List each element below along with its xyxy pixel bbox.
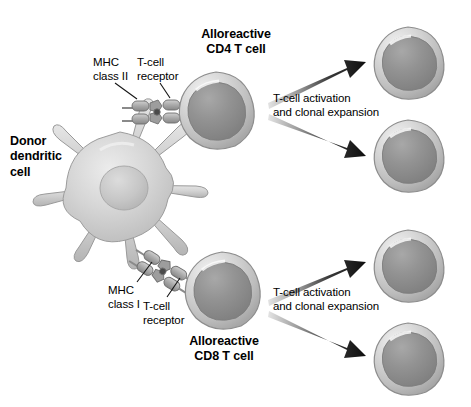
dendritic-cell-nucleus bbox=[100, 166, 148, 210]
tcr-domain-b bbox=[163, 113, 180, 123]
mhc-domain-a bbox=[132, 101, 149, 111]
immunology-figure: Donor dendritic cell MHC class II T-cell… bbox=[0, 0, 471, 407]
label-activation-top: T-cell activation and clonal expansion bbox=[273, 91, 379, 119]
cd4-daughter-cell-1 bbox=[374, 27, 444, 99]
mhc-domain-b bbox=[132, 114, 149, 124]
daughter-cells bbox=[374, 27, 444, 395]
top-leader-lines bbox=[115, 83, 170, 99]
cd8-daughter-cell-2 bbox=[374, 323, 444, 395]
cd8-nucleus bbox=[194, 262, 252, 320]
peptide-binding-junction bbox=[150, 100, 162, 124]
cd4-daughter-cell-2 bbox=[374, 120, 444, 192]
label-mhc-class-ii: MHC class II bbox=[93, 55, 128, 83]
alloreactive-cd8-t-cell bbox=[185, 252, 260, 329]
arrow-cd8-expansion-2 bbox=[268, 311, 366, 358]
label-t-cell-receptor-bottom: T-cell receptor bbox=[143, 299, 184, 327]
alloreactive-cd4-t-cell bbox=[179, 72, 254, 149]
leader-mhc-class-ii bbox=[115, 83, 137, 99]
cd4-nucleus bbox=[188, 82, 246, 140]
label-mhc-class-i: MHC class I bbox=[108, 283, 140, 311]
cd8-daughter-cell-1 bbox=[374, 230, 444, 302]
arrow-cd4-expansion-2 bbox=[268, 114, 366, 158]
leader-tcr-top bbox=[160, 83, 170, 98]
label-donor-dendritic-cell: Donor dendritic cell bbox=[10, 134, 62, 180]
label-alloreactive-cd8-t-cell: Alloreactive CD8 T cell bbox=[166, 334, 282, 365]
tcr-domain-a bbox=[163, 100, 180, 110]
label-activation-bottom: T-cell activation and clonal expansion bbox=[273, 285, 379, 313]
label-t-cell-receptor-top: T-cell receptor bbox=[137, 55, 178, 83]
label-alloreactive-cd4-t-cell: Alloreactive CD4 T cell bbox=[178, 27, 294, 58]
